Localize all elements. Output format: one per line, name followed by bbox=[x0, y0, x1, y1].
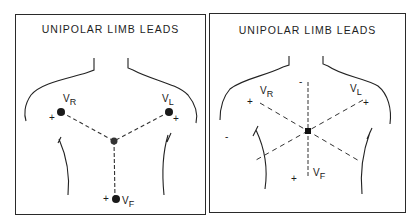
torso-outline-right bbox=[210, 14, 407, 214]
plus-sign-vr: + bbox=[247, 97, 253, 107]
electrode-vl bbox=[165, 108, 173, 116]
plus-sign-vr: + bbox=[49, 113, 55, 123]
plus-sign-vf: + bbox=[291, 174, 297, 184]
plus-sign-vl: + bbox=[173, 114, 179, 124]
panel-right-limb-leads: UNIPOLAR LIMB LEADS VR VL VF + + + - - bbox=[209, 13, 406, 213]
label-vl: VL bbox=[350, 84, 362, 97]
label-vl: VL bbox=[162, 94, 174, 107]
label-vf: VF bbox=[313, 168, 325, 181]
plus-sign-vf: + bbox=[103, 194, 109, 204]
label-vr: VR bbox=[63, 94, 76, 107]
central-terminal bbox=[111, 138, 118, 145]
label-vf: VF bbox=[122, 196, 134, 209]
minus-sign-vf: - bbox=[299, 77, 302, 87]
electrode-vf bbox=[112, 195, 120, 203]
central-terminal bbox=[305, 128, 311, 134]
panel-left-limb-leads: UNIPOLAR LIMB LEADS VR VL VF + + + bbox=[15, 14, 206, 215]
minus-sign-vl: - bbox=[225, 132, 228, 142]
plus-sign-vl: + bbox=[363, 98, 369, 108]
label-vr: VR bbox=[260, 86, 273, 99]
electrode-vr bbox=[57, 108, 65, 116]
